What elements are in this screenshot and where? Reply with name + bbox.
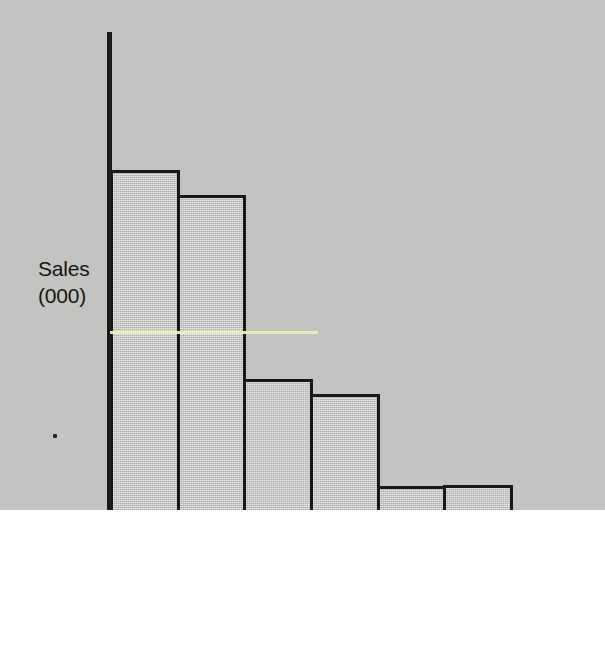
bar-jan <box>110 170 180 510</box>
scan-speck-artifact <box>53 434 57 438</box>
bar-apr <box>310 394 380 510</box>
bar-feb <box>177 195 247 510</box>
plot-area <box>110 32 513 510</box>
bars-container <box>110 32 513 510</box>
bar-mar <box>243 379 313 510</box>
bar-chart-figure: Sales (000) Jan Feb Mar Apr May June <box>0 0 605 510</box>
yellow-guide-line <box>110 331 318 334</box>
bar-may <box>377 486 447 510</box>
y-axis-title: Sales (000) <box>38 255 104 309</box>
bar-june <box>443 485 513 510</box>
y-axis-title-line-2: (000) <box>38 282 104 309</box>
y-axis-title-line-1: Sales <box>38 255 104 282</box>
